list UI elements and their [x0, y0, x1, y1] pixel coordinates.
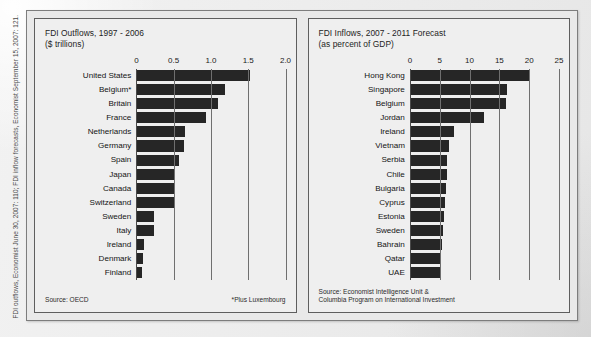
- gridline-outflows-3: [248, 69, 249, 280]
- bar-row: Estonia: [410, 210, 559, 224]
- bar: [410, 183, 446, 194]
- gridline-inflows-0: [410, 69, 411, 280]
- x-tick-outflows-2: 1.0: [205, 56, 216, 65]
- gridline-inflows-5: [559, 69, 560, 280]
- gridline-outflows-1: [174, 69, 175, 280]
- bar-row: Bulgaria: [410, 182, 559, 196]
- category-label: Ireland: [380, 128, 410, 136]
- category-label: Sweden: [102, 213, 136, 221]
- category-label: Switzerland: [90, 199, 137, 207]
- x-tick-inflows-3: 15: [495, 56, 504, 65]
- bar-row: Chile: [410, 168, 559, 182]
- category-label: France: [106, 114, 136, 122]
- bar: [136, 239, 143, 250]
- category-label: Britain: [108, 100, 136, 108]
- gridline-inflows-4: [529, 69, 530, 280]
- x-tick-inflows-2: 10: [465, 56, 474, 65]
- bar: [410, 253, 440, 264]
- x-tick-outflows-3: 1.5: [243, 56, 254, 65]
- panel-footer-inflows: Source: Economist Intelligence Unit & Co…: [319, 284, 560, 306]
- x-tick-outflows-1: 0.5: [168, 56, 179, 65]
- scanned-page: FDI outflows, Economist June 30, 2007: 1…: [0, 0, 591, 337]
- bar-row: Singapore: [410, 83, 559, 97]
- bar-row: Sweden: [410, 224, 559, 238]
- bar-row: Serbia: [410, 154, 559, 168]
- plot-inflows: Hong KongSingaporeBelgiumJordanIrelandVi…: [410, 69, 559, 280]
- category-label: Singapore: [368, 86, 410, 94]
- plot-outflows: United StatesBelgium*BritainFranceNether…: [136, 69, 285, 280]
- bar: [136, 211, 153, 222]
- gridline-outflows-2: [211, 69, 212, 280]
- bar: [136, 140, 184, 151]
- category-label: Sweden: [376, 227, 410, 235]
- gridline-outflows-0: [136, 69, 137, 280]
- bar-row: Hong Kong: [410, 69, 559, 83]
- category-label: Bulgaria: [375, 185, 410, 193]
- panel-fdi-outflows: FDI Outflows, 1997 - 2006 ($ trillions) …: [34, 18, 297, 313]
- bar: [136, 183, 173, 194]
- bar: [136, 225, 153, 236]
- panel-footer-outflows: Source: OECD *Plus Luxembourg: [45, 284, 286, 306]
- category-label: Bahrain: [377, 241, 410, 249]
- category-label: Jordan: [380, 114, 410, 122]
- x-tick-inflows-1: 5: [437, 56, 441, 65]
- x-tick-inflows-5: 25: [555, 56, 564, 65]
- gridline-outflows-4: [286, 69, 287, 280]
- category-label: United States: [83, 72, 137, 80]
- category-label: Qatar: [385, 255, 410, 263]
- footnote-outflows: *Plus Luxembourg: [232, 296, 286, 305]
- category-label: Hong Kong: [364, 72, 410, 80]
- gridline-inflows-2: [470, 69, 471, 280]
- category-label: Vietnam: [375, 142, 410, 150]
- category-label: Estonia: [378, 213, 410, 221]
- category-label: Ireland: [107, 241, 137, 249]
- bar-row: UAE: [410, 266, 559, 280]
- source-note-outflows: Source: OECD: [45, 296, 89, 305]
- bar: [136, 197, 174, 208]
- x-tick-inflows-0: 0: [408, 56, 412, 65]
- source-note-inflows: Source: Economist Intelligence Unit & Co…: [319, 288, 455, 305]
- category-label: Italy: [117, 227, 137, 235]
- category-label: Finland: [105, 269, 137, 277]
- x-tick-inflows-4: 20: [525, 56, 534, 65]
- category-label: Spain: [111, 156, 137, 164]
- panel-title-outflows: FDI Outflows, 1997 - 2006 ($ trillions): [45, 28, 286, 49]
- bar-row: Vietnam: [410, 139, 559, 153]
- bar: [410, 98, 506, 109]
- category-label: Belgium*: [99, 86, 136, 94]
- chart-inflows: 0510152025 Hong KongSingaporeBelgiumJord…: [319, 56, 560, 280]
- gridline-inflows-3: [499, 69, 500, 280]
- bar: [136, 126, 184, 137]
- bar-rows-inflows: Hong KongSingaporeBelgiumJordanIrelandVi…: [410, 69, 559, 280]
- bar: [410, 84, 507, 95]
- category-label: Cyprus: [379, 199, 410, 207]
- figure-frame: FDI Outflows, 1997 - 2006 ($ trillions) …: [26, 10, 578, 321]
- category-label: UAE: [388, 269, 410, 277]
- bar-row: Qatar: [410, 252, 559, 266]
- panel-fdi-inflows: FDI Inflows, 2007 - 2011 Forecast (as pe…: [308, 18, 571, 313]
- bar-row: Belgium: [410, 97, 559, 111]
- gridline-inflows-1: [440, 69, 441, 280]
- bar: [136, 253, 143, 264]
- bar: [136, 70, 249, 81]
- bar: [410, 126, 454, 137]
- category-label: Denmark: [99, 255, 137, 263]
- bar: [410, 267, 440, 278]
- bar: [136, 112, 205, 123]
- x-tick-outflows-0: 0: [134, 56, 138, 65]
- category-label: Serbia: [381, 156, 409, 164]
- bar-row: Ireland: [410, 125, 559, 139]
- panel-title-inflows: FDI Inflows, 2007 - 2011 Forecast (as pe…: [319, 28, 560, 49]
- bar-row: Cyprus: [410, 196, 559, 210]
- bar: [410, 225, 443, 236]
- bar-row: Bahrain: [410, 238, 559, 252]
- figure-citation: FDI outflows, Economist June 30, 2007: 1…: [12, 0, 19, 325]
- x-axis-labels-inflows: 0510152025: [410, 56, 559, 69]
- category-label: Netherlands: [88, 128, 137, 136]
- category-label: Canada: [103, 185, 136, 193]
- category-label: Japan: [109, 171, 136, 179]
- bar: [410, 155, 447, 166]
- x-tick-outflows-4: 2.0: [280, 56, 291, 65]
- bar: [410, 140, 449, 151]
- bar: [136, 169, 174, 180]
